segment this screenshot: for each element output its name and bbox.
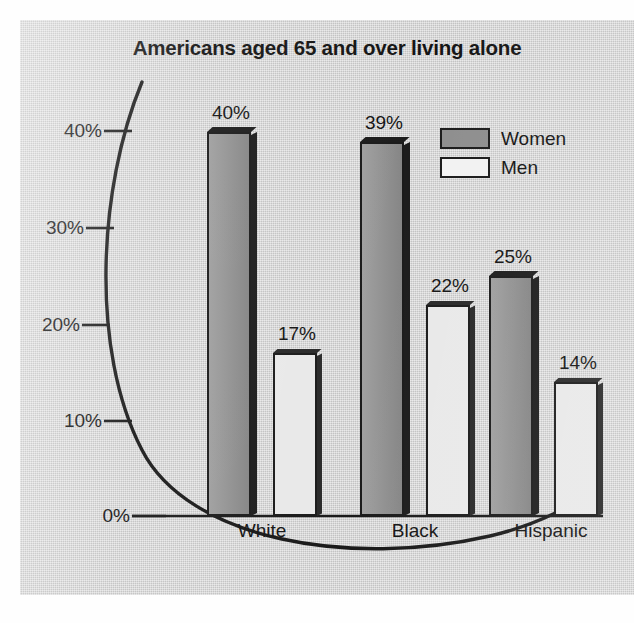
bar-value-men-black: 22%: [431, 275, 469, 297]
x-category-white: White: [202, 520, 322, 542]
bar-front-face: [360, 142, 404, 516]
bar-front-face: [207, 132, 251, 516]
legend-item-women[interactable]: Women: [440, 126, 566, 151]
bar-men-black[interactable]: [426, 305, 470, 516]
legend-label-men: Men: [501, 157, 538, 179]
bar-side-face: [404, 142, 410, 516]
bar-women-black[interactable]: [360, 142, 404, 516]
bar-side-face: [470, 306, 475, 516]
x-category-hispanic: Hispanic: [481, 520, 621, 542]
bar-front-face: [554, 382, 598, 516]
legend-swatch-men-icon: [440, 157, 490, 178]
bar-side-face: [598, 383, 603, 516]
legend-item-men[interactable]: Men: [440, 155, 566, 180]
bar-value-men-white: 17%: [278, 323, 316, 345]
scanned-page-panel: Americans aged 65 and over living alone …: [20, 20, 634, 595]
legend-label-women: Women: [501, 128, 566, 150]
bar-women-hispanic[interactable]: [489, 276, 533, 516]
bar-value-women-white: 40%: [212, 102, 250, 124]
bar-value-women-black: 39%: [365, 112, 403, 134]
bar-chart: Americans aged 65 and over living alone …: [20, 20, 634, 595]
bar-side-face: [317, 354, 322, 516]
y-tick-label-0: 0%: [20, 505, 130, 527]
bar-men-hispanic[interactable]: [554, 382, 598, 516]
legend-swatch-women-icon: [440, 128, 490, 149]
bar-front-face: [426, 305, 470, 516]
y-tick-label-30: 30%: [20, 217, 84, 239]
bar-value-men-hispanic: 14%: [559, 352, 597, 374]
y-tick-label-10: 10%: [20, 410, 102, 432]
bar-men-white[interactable]: [273, 353, 317, 516]
bar-value-women-hispanic: 25%: [494, 246, 532, 268]
x-category-black: Black: [355, 520, 475, 542]
chart-legend: Women Men: [440, 126, 566, 184]
y-tick-label-20: 20%: [20, 314, 80, 336]
bar-side-face: [533, 276, 539, 516]
bar-front-face: [273, 353, 317, 516]
bar-front-face: [489, 276, 533, 516]
screenshot-root: Americans aged 65 and over living alone …: [0, 0, 634, 623]
bar-women-white[interactable]: [207, 132, 251, 516]
y-tick-label-40: 40%: [20, 120, 102, 142]
bar-side-face: [251, 132, 257, 516]
